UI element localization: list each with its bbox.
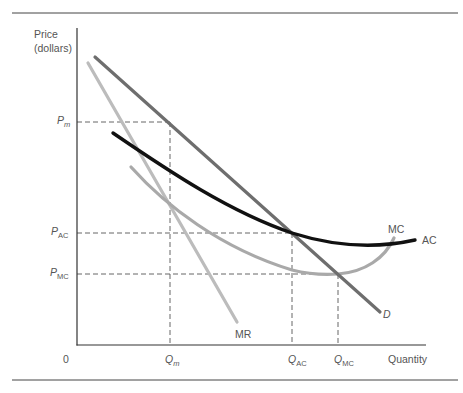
price-label-pmc: PMC bbox=[50, 267, 69, 278]
quantity-label-qm: Qm bbox=[165, 354, 179, 365]
monopoly-cost-diagram: Price (dollars) 0 Quantity Pm PAC PMC Qm… bbox=[0, 0, 463, 393]
price-label-pm: Pm bbox=[57, 115, 70, 126]
y-axis-label-line2: (dollars) bbox=[34, 41, 72, 55]
diagram-canvas bbox=[0, 0, 463, 393]
origin-label: 0 bbox=[63, 354, 69, 365]
quantity-label-qmc: QMC bbox=[334, 354, 354, 365]
mr-curve-label: MR bbox=[235, 329, 251, 340]
marginal-revenue-curve bbox=[88, 63, 237, 322]
y-axis-label-line1: Price bbox=[34, 27, 72, 41]
y-axis-label: Price (dollars) bbox=[34, 27, 72, 55]
ac-curve-label: AC bbox=[422, 235, 437, 246]
price-label-pac: PAC bbox=[51, 226, 68, 237]
quantity-label-qac: QAC bbox=[288, 354, 307, 365]
average-cost-curve bbox=[113, 133, 415, 245]
mc-curve-label: MC bbox=[388, 224, 404, 235]
demand-curve-label: D bbox=[383, 309, 391, 320]
x-axis-label: Quantity bbox=[388, 354, 427, 365]
